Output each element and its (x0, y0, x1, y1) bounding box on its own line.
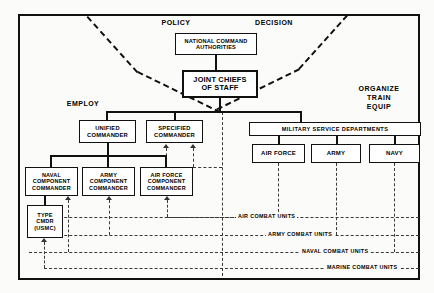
zone-label-train: TRAIN (347, 94, 411, 103)
node-type-cmdr-usmc[interactable]: TYPE CMDR (USMC) (27, 205, 63, 238)
zone-label-policy: POLICY (148, 19, 204, 28)
combat-unit-label-naval: NAVAL COMBAT UNITS (300, 248, 370, 254)
connector-to-naval-component (50, 155, 52, 167)
combat-unit-label-army: ARMY COMBAT UNITS (266, 231, 334, 237)
arrowhead-naval-component (65, 196, 71, 200)
connector-to-army-component (107, 155, 109, 167)
diagram-canvas: POLICY DECISION EMPLOY ORGANIZE TRAIN EQ… (0, 0, 434, 293)
connector-to-airforce-component (165, 155, 167, 167)
node-msd-label: MILITARY SERVICE DEPARTMENTS (282, 126, 389, 132)
connector-to-airforce (278, 134, 280, 144)
connector-to-navy (394, 134, 396, 144)
combat-unit-label-air: AIR COMBAT UNITS (236, 213, 297, 219)
node-navy[interactable]: NAVY (369, 144, 420, 163)
zone-label-decision: DECISION (243, 19, 305, 28)
node-army[interactable]: ARMY (311, 144, 361, 163)
connector-naval-to-type-cmdr (44, 196, 46, 205)
dashed-feed-specified-right-bridge (193, 167, 222, 168)
connector-distribution-bar (106, 111, 301, 113)
node-jcs-line2: OF STAFF (201, 84, 238, 92)
node-specified-commander[interactable]: SPECIFIED COMMANDER (146, 120, 203, 143)
connector-jcs-stem (219, 98, 221, 112)
node-unified-line2: COMMANDER (87, 132, 128, 138)
node-national-command-authorities[interactable]: NATIONAL COMMAND AUTHORITIES (175, 33, 257, 55)
node-naval-component-commander[interactable]: NAVAL COMPONENT COMMANDER (25, 167, 78, 196)
arrowhead-marine-type-cmdr (41, 238, 47, 242)
node-type-cmdr-line3: (USMC) (34, 225, 55, 231)
combat-unit-label-marine: MARINE COMBAT UNITS (325, 264, 399, 270)
node-nca-line2: AUTHORITIES (196, 44, 236, 50)
node-air-force[interactable]: AIR FORCE (252, 144, 305, 163)
node-air-force-component-commander[interactable]: AIR FORCE COMPONENT COMMANDER (140, 167, 193, 196)
node-airforce-label: AIR FORCE (261, 150, 296, 157)
dashed-feed-specified-right (193, 148, 194, 167)
arrowhead-air-component (164, 196, 170, 200)
dashed-army-from-army-service (336, 163, 337, 235)
node-army-component-commander[interactable]: ARMY COMPONENT COMMANDER (82, 167, 135, 196)
node-army-comp-line3: COMMANDER (89, 185, 128, 191)
node-military-service-departments[interactable]: MILITARY SERVICE DEPARTMENTS (249, 122, 421, 135)
dashed-air-to-component (167, 200, 168, 217)
arrowhead-specified-right (190, 144, 196, 148)
arrowhead-army-component (106, 196, 112, 200)
zone-label-organize: ORGANIZE (347, 85, 411, 94)
dashed-air-from-airforce (278, 163, 279, 217)
dashed-army-to-component (109, 200, 110, 235)
node-specified-line2: COMMANDER (154, 132, 195, 138)
connector-to-army (336, 134, 338, 144)
zone-label-equip: EQUIP (347, 103, 411, 112)
node-navy-label: NAVY (386, 150, 403, 157)
dashed-naval-to-component (68, 200, 69, 252)
node-af-comp-line3: COMMANDER (147, 185, 186, 191)
connector-to-military-service-departments (300, 111, 302, 122)
node-joint-chiefs-of-staff[interactable]: JOINT CHIEFS OF STAFF (182, 70, 258, 98)
node-unified-commander[interactable]: UNIFIED COMMANDER (79, 120, 136, 143)
arrowhead-specified-left (163, 144, 169, 148)
zone-label-employ: EMPLOY (54, 100, 112, 109)
node-army-label: ARMY (327, 150, 345, 157)
node-naval-comp-line3: COMMANDER (32, 185, 71, 191)
dashed-naval-from-navy-service (394, 163, 395, 252)
dashed-marine-to-type-cmdr (44, 242, 45, 268)
connector-nca-to-jcs (215, 55, 217, 70)
dashed-army-combat-run (29, 235, 419, 236)
